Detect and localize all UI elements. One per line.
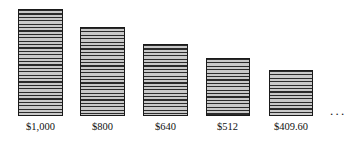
bar-label-2: $800 xyxy=(75,120,130,133)
bar-chart-figure: $1,000 $800 $640 $512 $409.60 ... xyxy=(0,0,360,146)
bar-label-3: $640 xyxy=(138,120,193,133)
bar-label-5: $409.60 xyxy=(262,120,320,133)
bar-5 xyxy=(269,70,313,116)
bar-4 xyxy=(206,58,250,116)
plot-area: $1,000 $800 $640 $512 $409.60 ... xyxy=(0,0,360,146)
continuation-ellipsis: ... xyxy=(330,106,346,116)
bar-2 xyxy=(80,27,125,116)
bar-label-1: $1,000 xyxy=(13,120,68,133)
bar-label-4: $512 xyxy=(200,120,255,133)
bar-1 xyxy=(18,9,63,116)
bar-3 xyxy=(143,44,188,116)
